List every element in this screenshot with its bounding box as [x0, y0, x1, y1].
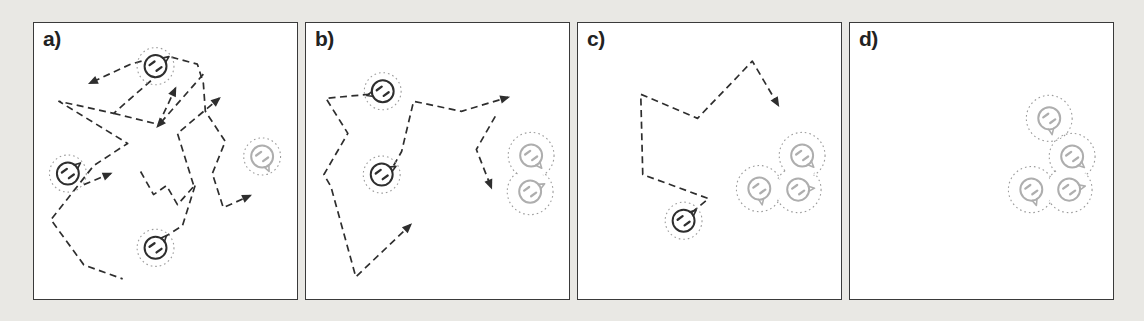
trajectory-path [90, 61, 142, 83]
trajectory-path [171, 57, 250, 208]
arrow-head [168, 86, 176, 97]
particle-light [1058, 179, 1080, 201]
particle-dark [57, 163, 79, 185]
panel-d: d) [849, 22, 1114, 300]
particle-light [520, 144, 542, 166]
particle-light [1038, 107, 1060, 129]
particle-light [787, 179, 809, 201]
panel-d-canvas [850, 23, 1113, 299]
particle-light [1061, 145, 1083, 167]
particle-light [1020, 179, 1042, 201]
arrow-head [484, 179, 492, 190]
arrow-head [102, 173, 113, 181]
particle-light [251, 145, 273, 167]
trajectory-path [476, 116, 495, 187]
particle-dark [673, 210, 695, 232]
panel-c-canvas [578, 23, 841, 299]
arrow-head [499, 96, 510, 104]
aggregation-figure: a) b) c) d) [0, 0, 1144, 321]
trajectory-path [141, 172, 196, 236]
particle-dark [145, 237, 167, 259]
particle-light [791, 144, 813, 166]
trajectory-path [324, 94, 411, 277]
panel-d-label: d) [859, 27, 878, 51]
arrow-head [771, 96, 780, 107]
panel-b-label: b) [315, 27, 334, 51]
particle-light [748, 178, 770, 200]
panel-b: b) [305, 22, 570, 300]
panel-a: a) [33, 22, 298, 300]
trajectory-path [394, 97, 509, 165]
arrow-head [241, 195, 252, 203]
panel-b-canvas [306, 23, 569, 299]
panel-c: c) [577, 22, 842, 300]
panel-c-label: c) [587, 27, 605, 51]
particle-dark [372, 80, 394, 102]
panel-a-label: a) [43, 27, 61, 51]
panel-a-canvas [34, 23, 297, 299]
